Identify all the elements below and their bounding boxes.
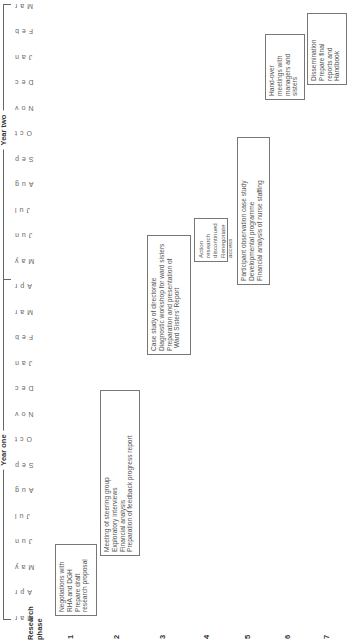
month-label: Jul [12, 204, 30, 214]
month-text: Jun [12, 231, 32, 240]
month-label: Mar [12, 306, 33, 316]
bracket-tick [4, 619, 11, 620]
phase-7-line: Handbook [333, 17, 341, 81]
month-text: Apr [12, 588, 32, 597]
month-label: Feb [12, 26, 33, 36]
month-text: Nov [12, 104, 33, 113]
month-label: May [12, 561, 34, 571]
phase-4-line: discontinued [211, 222, 218, 258]
phase-1-line: research proposal [81, 548, 89, 612]
phase-number-2: 2 [112, 635, 121, 639]
year-one-label: Year one [0, 430, 8, 469]
month-text: Jun [12, 537, 32, 546]
phase-5-line: Participant observation case study [240, 141, 248, 281]
phase-7-line: reports and [326, 17, 334, 81]
month-text: Mar [12, 2, 33, 11]
year-one-bracket: Year one [3, 280, 12, 620]
phase-2-box: Meeting of steering group Exploratory in… [100, 390, 140, 556]
month-label: May [12, 255, 34, 265]
month-text: May [12, 563, 34, 572]
month-text: May [12, 257, 34, 266]
phase-4-line: Renegotiate [219, 222, 226, 258]
month-text: Feb [12, 27, 33, 36]
month-text: Jul [12, 206, 30, 215]
phase-7-box: Dissemination Prepare final reports and … [307, 13, 347, 85]
phase-6-line: managers and [284, 38, 292, 96]
month-label: Sep [12, 153, 33, 163]
month-label: Jan [12, 51, 32, 61]
phase-1-line: Negotiations with [58, 548, 66, 612]
phase-6-line: meetings with [276, 38, 284, 96]
month-label: Aug [12, 485, 33, 495]
phase-1-line: Prepare draft [74, 548, 82, 612]
month-text: Nov [12, 410, 33, 419]
month-text: Mar [12, 308, 33, 317]
phase-number-3: 3 [158, 635, 167, 639]
month-label: Dec [12, 77, 33, 87]
month-label: Aug [12, 179, 33, 189]
phase-3-line: Preparation and presentation of [166, 239, 174, 351]
phase-4-line: access [226, 222, 233, 258]
month-text: Apr [12, 282, 32, 291]
month-label: Jun [12, 536, 32, 546]
month-label: Jan [12, 357, 32, 367]
month-label: Dec [12, 383, 33, 393]
month-text: Aug [12, 486, 33, 495]
month-text: Jan [12, 359, 32, 368]
phase-3-box: Case study of directorate Diagnostic wor… [147, 235, 191, 355]
month-label: Mar [12, 0, 33, 10]
month-text: Sep [12, 155, 33, 164]
phase-7-line: Prepare final [318, 17, 326, 81]
month-label: Apr [12, 281, 32, 291]
phase-5-line: Developmental programme [248, 141, 256, 281]
phase-3-line: Ward Sisters' Report [173, 239, 181, 351]
month-label: Oct [12, 434, 32, 444]
month-text: Dec [12, 384, 33, 393]
bracket-tick [4, 4, 11, 5]
research-phase-heading: Research phase [26, 600, 44, 640]
phase-1-line: RHA and DGH [66, 548, 74, 612]
phase-4-box: Action research discontinued Renegotiate… [194, 218, 228, 262]
phase-7-line: Dissemination [310, 17, 318, 81]
month-text: Jan [12, 53, 32, 62]
phase-6-line: sisters [291, 38, 299, 96]
month-text: Oct [12, 435, 32, 444]
month-label: Apr [12, 587, 32, 597]
month-label: Feb [12, 332, 33, 342]
month-text: Sep [12, 461, 33, 470]
phase-5-line: Financial analysis of nurse staffing [256, 141, 264, 281]
phase-2-line: Preparation of feedback progress report [126, 394, 134, 552]
month-label: Nov [12, 408, 33, 418]
phase-number-4: 4 [202, 635, 211, 639]
phase-number-5: 5 [243, 635, 252, 639]
phase-2-line: Financial analysis [119, 394, 127, 552]
phase-number-1: 1 [66, 635, 75, 639]
phase-5-box: Participant observation case study Devel… [237, 137, 270, 285]
year-two-bracket: Year two [3, 4, 12, 280]
phase-2-line: Meeting of steering group [103, 394, 111, 552]
month-text: Oct [12, 129, 32, 138]
phase-1-box: Negotiations with RHA and DGH Prepare dr… [55, 544, 97, 616]
month-text: Feb [12, 333, 33, 342]
month-label: Jun [12, 230, 32, 240]
month-text: Dec [12, 78, 33, 87]
bracket-tick [4, 279, 11, 280]
month-label: Oct [12, 128, 32, 138]
month-label: Jul [12, 510, 30, 520]
phase-2-line: Exploratory interviews [111, 394, 119, 552]
phase-6-line: Hand-over [268, 38, 276, 96]
year-two-label: Year two [0, 111, 8, 150]
month-text: Jul [12, 512, 30, 521]
phase-number-6: 6 [283, 635, 292, 639]
phase-4-line: Action research [197, 222, 211, 258]
phase-3-line: Case study of directorate [150, 239, 158, 351]
month-label: Nov [12, 102, 33, 112]
phase-6-box: Hand-over meetings with managers and sis… [265, 34, 305, 100]
month-label: Sep [12, 459, 33, 469]
phase-number-7: 7 [322, 635, 331, 639]
month-text: Aug [12, 180, 33, 189]
research-timeline-diagram: Year one Year two MarAprMayJunJulAugSepO… [0, 0, 355, 642]
phase-3-line: Diagnostic workshop for ward sisters [158, 239, 166, 351]
